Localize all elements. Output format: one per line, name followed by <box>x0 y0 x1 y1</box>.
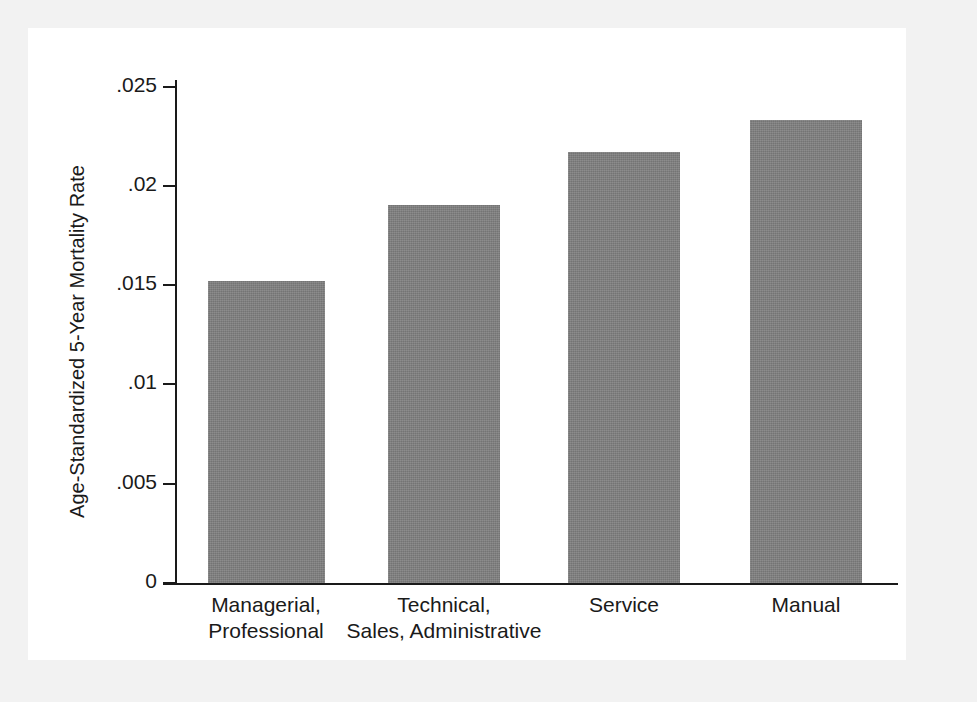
bar-chart: Age-Standardized 5-Year Mortality Rate .… <box>0 0 977 702</box>
x-label-line-1: Managerial, <box>211 593 321 616</box>
y-tick-label-005: .005 <box>7 470 157 494</box>
bar-service[interactable] <box>568 152 680 583</box>
y-tick-label-02: .02 <box>7 172 157 196</box>
bar-manual[interactable] <box>750 120 862 583</box>
x-label-line-2: Sales, Administrative <box>324 618 564 644</box>
y-axis-line <box>175 80 177 584</box>
y-tick-label-01: .01 <box>7 370 157 394</box>
x-label-service: Service <box>554 592 694 618</box>
x-label-line-1: Technical, <box>397 593 490 616</box>
figure-root: Age-Standardized 5-Year Mortality Rate .… <box>0 0 977 702</box>
y-tick-label-015: .015 <box>7 271 157 295</box>
x-label-line-1: Service <box>589 593 659 616</box>
x-axis-line <box>163 583 898 585</box>
x-label-technical-sales-administrative: Technical, Sales, Administrative <box>324 592 564 644</box>
bar-technical-sales-administrative[interactable] <box>388 205 500 583</box>
x-label-line-1: Manual <box>772 593 841 616</box>
y-tick-label-0: 0 <box>7 569 157 593</box>
bar-managerial-professional[interactable] <box>208 281 325 583</box>
y-tick-label-025: .025 <box>7 73 157 97</box>
x-label-manual: Manual <box>736 592 876 618</box>
y-axis-title: Age-Standardized 5-Year Mortality Rate <box>66 82 89 602</box>
